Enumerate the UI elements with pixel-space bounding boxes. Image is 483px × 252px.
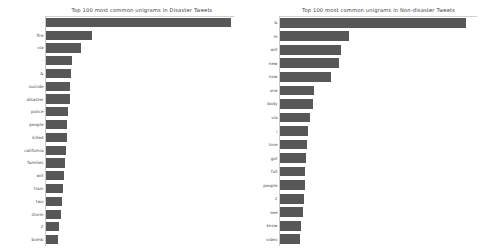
y-tick-label: body	[267, 101, 277, 106]
bar	[280, 194, 304, 204]
bar	[280, 58, 339, 68]
bar	[280, 113, 310, 123]
bar-row: families	[46, 157, 234, 170]
y-tick-label: full	[271, 169, 277, 174]
y-tick-label: people	[29, 122, 43, 127]
y-tick-label: i	[276, 129, 277, 134]
y-tick-label: storm	[31, 212, 43, 217]
bar	[280, 153, 306, 163]
bar-row: via	[280, 111, 477, 125]
bar	[46, 184, 63, 193]
bar	[46, 235, 58, 244]
y-tick-label: killed	[32, 135, 43, 140]
bar	[46, 158, 65, 167]
bar	[46, 31, 92, 40]
bar	[46, 133, 67, 142]
y-tick-label: california	[24, 148, 43, 153]
bar-row: one	[280, 84, 477, 98]
chart-panel-disaster: Top 100 most common unigrams in Disaster…	[0, 0, 240, 252]
bar-row: police	[46, 105, 234, 118]
bar	[46, 94, 70, 103]
figure-container: Top 100 most common unigrams in Disaster…	[0, 0, 483, 252]
bar-row: see	[280, 205, 477, 219]
bar	[280, 207, 303, 217]
bar-row: 2	[46, 221, 234, 234]
bar-row: full	[280, 165, 477, 179]
bar	[280, 99, 313, 109]
bar	[280, 167, 305, 177]
bar-row: will	[46, 169, 234, 182]
bar-row: killed	[46, 131, 234, 144]
y-tick-label: got	[271, 156, 278, 161]
bar-row: video	[280, 233, 477, 247]
y-tick-label: will	[271, 47, 278, 52]
y-tick-label: love	[269, 142, 278, 147]
bar-row: fire	[46, 29, 234, 42]
bar	[280, 221, 301, 231]
y-tick-label: &	[40, 71, 43, 76]
y-tick-label: video	[266, 237, 277, 242]
chart-panel-non-disaster: Top 100 most common unigrams in Non-disa…	[240, 0, 483, 252]
bar-row: storm	[46, 208, 234, 221]
bar	[46, 18, 231, 27]
bar-row: will	[280, 43, 477, 57]
bar	[280, 180, 305, 190]
y-tick-label: -	[42, 58, 44, 63]
y-tick-label: bomb	[32, 237, 44, 242]
bar	[280, 140, 307, 150]
y-tick-label: two	[36, 199, 44, 204]
chart-title-disaster: Top 100 most common unigrams in Disaster…	[0, 7, 240, 14]
chart-title-non-disaster: Top 100 most common unigrams in Non-disa…	[240, 7, 483, 14]
y-tick-label: suicide	[29, 84, 44, 89]
bar	[46, 43, 81, 52]
bar-row: body	[280, 97, 477, 111]
bar-row: now	[280, 70, 477, 84]
y-tick-label: families	[27, 160, 43, 165]
bar-row: disaster	[46, 93, 234, 106]
bar-row: love	[280, 138, 477, 152]
y-tick-label: -	[42, 20, 44, 25]
bar	[280, 234, 300, 244]
bar-row: &	[46, 67, 234, 80]
y-tick-label: police	[31, 109, 43, 114]
bar	[46, 146, 66, 155]
y-tick-label: disaster	[27, 97, 44, 102]
y-tick-label: m	[273, 34, 277, 39]
plot-area-disaster: -firevia-&suicidedisasterpolicepeoplekil…	[46, 16, 234, 246]
bar-row: 2	[280, 192, 477, 206]
bar-row: new	[280, 57, 477, 71]
bar-row: people	[280, 178, 477, 192]
y-tick-label: via	[271, 115, 277, 120]
bar-row: -	[46, 16, 234, 29]
bar	[280, 45, 341, 55]
bar	[46, 120, 67, 129]
y-tick-label: know	[266, 223, 277, 228]
y-tick-label: people	[263, 183, 277, 188]
bar-row: -	[46, 54, 234, 67]
y-tick-label: new	[269, 61, 278, 66]
y-tick-label: via	[37, 45, 43, 50]
bar-row: people	[46, 118, 234, 131]
plot-area-non-disaster: &mwillnewnowonebodyviailovegotfullpeople…	[280, 16, 477, 246]
bar	[46, 69, 71, 78]
y-tick-label: 2	[275, 196, 278, 201]
bar	[280, 126, 308, 136]
bar-row: suicide	[46, 80, 234, 93]
bar	[280, 86, 314, 96]
y-tick-label: see	[270, 210, 277, 215]
bar-row: got	[280, 151, 477, 165]
bar-row: m	[280, 30, 477, 44]
y-tick-label: train	[34, 186, 44, 191]
bar	[46, 107, 68, 116]
bar-row: i	[280, 124, 477, 138]
y-tick-label: 2	[41, 224, 44, 229]
y-tick-label: now	[269, 74, 278, 79]
bar	[280, 72, 331, 82]
bar	[46, 222, 59, 231]
bar-row: bomb	[46, 233, 234, 246]
bar-row: two	[46, 195, 234, 208]
bar	[280, 31, 349, 41]
y-tick-label: will	[37, 173, 44, 178]
bar	[280, 18, 466, 28]
bar-row: know	[280, 219, 477, 233]
